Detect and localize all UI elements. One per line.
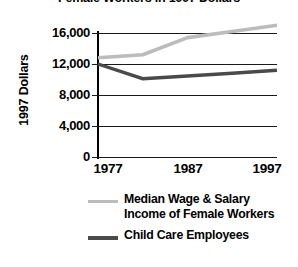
legend-label-child-care: Child Care Employees [124, 228, 249, 243]
legend-label-median-wage: Median Wage & Salary Income of Female Wo… [124, 192, 274, 222]
legend-swatch-line-icon-child-care [88, 236, 118, 240]
legend-item-median-wage[interactable]: Median Wage & Salary Income of Female Wo… [0, 192, 298, 228]
chart-legend: Median Wage & Salary Income of Female Wo… [0, 192, 298, 250]
legend-label-median-wage-line2: Income of Female Workers [124, 207, 274, 222]
legend-label-median-wage-line1: Median Wage & Salary [124, 192, 250, 206]
chart-container: Female Workers in 1997 Dollars 1997 Doll… [0, 0, 298, 267]
series-line-child-care-employees [98, 64, 277, 79]
legend-swatch-line-icon-median-wage [88, 200, 118, 203]
legend-item-child-care[interactable]: Child Care Employees [0, 228, 298, 250]
series-line-median-wage-salary [98, 25, 277, 58]
